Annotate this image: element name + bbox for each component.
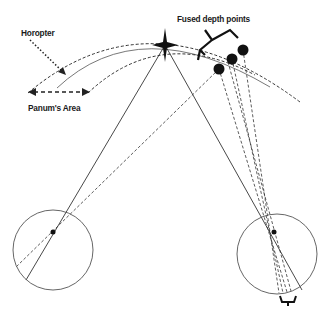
right-eye-dashed-ray-2 [232, 59, 283, 293]
panums-area-label: Panum's Area [28, 103, 80, 113]
fused-depth-point-1 [214, 64, 225, 75]
fixation-star-icon [152, 28, 178, 62]
left-eye-dashed-ray [15, 69, 219, 268]
disparity-brace-icon [280, 296, 296, 306]
left-visual-axis [26, 45, 165, 280]
binocular-vision-diagram [0, 0, 328, 320]
fused-depth-point-3 [238, 45, 249, 56]
right-eye [237, 214, 317, 294]
fused-depth-points-label: Fused depth points [177, 14, 250, 24]
right-eye-dashed-ray-1 [219, 69, 287, 292]
horopter-label: Horopter [21, 28, 54, 38]
arrowhead-icon [58, 67, 66, 75]
horopter-pointer [30, 40, 63, 72]
arrowhead-right-icon [82, 88, 90, 96]
right-eye-dashed-ray-3 [243, 50, 279, 293]
right-eye-node [272, 230, 277, 235]
fused-depth-point-2 [227, 54, 238, 65]
left-eye [13, 210, 93, 290]
left-eye-node [51, 230, 56, 235]
